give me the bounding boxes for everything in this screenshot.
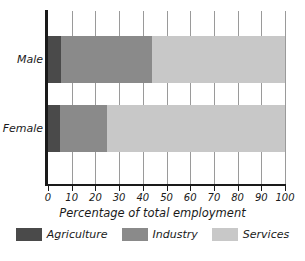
y-axis-line bbox=[45, 10, 48, 186]
bar-segment-female-industry bbox=[60, 105, 107, 152]
stacked-bar-chart: 0102030405060708090100 MaleFemale Percen… bbox=[0, 0, 305, 261]
bar-group-male bbox=[48, 36, 285, 83]
legend-label: Agriculture bbox=[47, 228, 108, 241]
x-axis-title: Percentage of total employment bbox=[0, 206, 305, 220]
category-label-female: Female bbox=[0, 122, 43, 135]
x-tick-label: 90 bbox=[248, 192, 274, 203]
x-tick-label: 80 bbox=[225, 192, 251, 203]
x-tick-label: 10 bbox=[59, 192, 85, 203]
tick-mark bbox=[167, 186, 168, 191]
x-tick-label: 100 bbox=[272, 192, 298, 203]
x-tick-label: 60 bbox=[177, 192, 203, 203]
legend-swatch-icon bbox=[122, 228, 148, 241]
legend-label: Industry bbox=[153, 228, 198, 241]
tick-mark bbox=[95, 186, 96, 191]
tick-mark bbox=[143, 186, 144, 191]
tick-mark bbox=[119, 186, 120, 191]
legend-item-industry[interactable]: Industry bbox=[122, 228, 198, 241]
x-tick-label: 0 bbox=[35, 192, 61, 203]
x-axis-line bbox=[45, 184, 286, 186]
bar-segment-male-services bbox=[152, 36, 285, 83]
tick-mark bbox=[261, 186, 262, 191]
bar-segment-female-services bbox=[107, 105, 285, 152]
tick-mark bbox=[214, 186, 215, 191]
category-label-male: Male bbox=[0, 53, 43, 66]
plot-area bbox=[48, 11, 285, 185]
legend-label: Services bbox=[243, 228, 289, 241]
tick-mark bbox=[48, 186, 49, 191]
x-tick-label: 50 bbox=[154, 192, 180, 203]
bar-segment-male-industry bbox=[61, 36, 152, 83]
legend-item-services[interactable]: Services bbox=[212, 228, 289, 241]
chart-legend: AgricultureIndustryServices bbox=[0, 228, 305, 241]
legend-item-agriculture[interactable]: Agriculture bbox=[16, 228, 108, 241]
gridline bbox=[285, 11, 286, 185]
tick-mark bbox=[190, 186, 191, 191]
legend-swatch-icon bbox=[212, 228, 238, 241]
bar-segment-female-agriculture bbox=[48, 105, 60, 152]
x-tick-label: 20 bbox=[82, 192, 108, 203]
bar-segment-male-agriculture bbox=[48, 36, 61, 83]
tick-mark bbox=[285, 186, 286, 191]
x-tick-label: 40 bbox=[130, 192, 156, 203]
legend-swatch-icon bbox=[16, 228, 42, 241]
bar-group-female bbox=[48, 105, 285, 152]
x-tick-label: 30 bbox=[106, 192, 132, 203]
tick-mark bbox=[72, 186, 73, 191]
tick-mark bbox=[238, 186, 239, 191]
x-tick-label: 70 bbox=[201, 192, 227, 203]
